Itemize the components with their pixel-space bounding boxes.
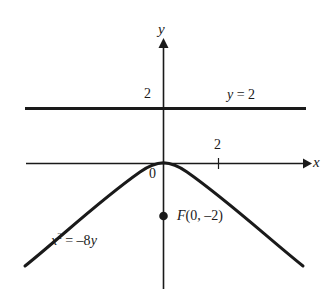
x-axis-arrowhead (303, 159, 312, 169)
equation-right-hand-side: = –8 (62, 233, 91, 248)
x-axis-label: x (313, 155, 320, 170)
y-axis-label: y (158, 22, 165, 37)
directrix-label-equals-value: = 2 (233, 87, 255, 102)
figure-canvas (0, 0, 326, 296)
x-tick-label-2: 2 (214, 138, 221, 152)
parabola-figure: y x 2 2 0 y = 2 F(0, –2) x2 = –8y (0, 0, 326, 296)
focus-point-dot (159, 212, 168, 221)
focus-label-letter: F (177, 208, 186, 223)
directrix-label: y = 2 (227, 88, 255, 102)
parabola-equation-label: x2 = –8y (51, 234, 97, 248)
focus-label-coordinates: (0, –2) (186, 208, 223, 223)
focus-label: F(0, –2) (177, 209, 223, 223)
y-axis-arrowhead (159, 38, 169, 48)
equation-variable-y: y (91, 233, 97, 248)
origin-label: 0 (149, 167, 156, 181)
y-tick-label-2: 2 (144, 87, 151, 101)
